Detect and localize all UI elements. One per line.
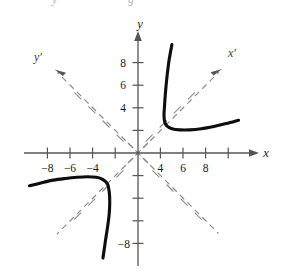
x-axis-label: x [262,146,269,160]
y-tick-label-8: 8 [120,57,126,69]
y-axis-label: y [135,17,143,31]
y-tick-label-4: 4 [120,102,126,114]
y-prime-axis-label: y′ [33,50,42,64]
y-axis: 8 6 4 −8 y [118,17,144,266]
graph-figure: y g y′ [0,0,283,272]
y-prime-axis-line [58,73,149,164]
x-prime-arrowhead [211,69,223,76]
x-prime-ticks [146,92,195,141]
y-tick-label-6: 6 [120,79,126,91]
y-prime-axis: y′ [33,50,219,234]
x-axis-arrowhead [249,149,259,157]
x-tick-label-6: 6 [180,162,186,174]
hyperbola-curves [30,45,239,259]
x-tick-label--4: −4 [86,162,98,174]
curve-branch-lower-left [30,177,110,258]
x-tick-label-4: 4 [158,162,164,174]
y-prime-negative-ticks [152,170,201,219]
y-prime-ticks [74,92,123,141]
y-prime-arrowhead [55,70,67,77]
y-tick-label--8: −8 [118,238,130,250]
x-prime-axis-label: x′ [227,46,236,60]
coordinate-plane: y′ x′ [0,0,283,272]
x-tick-label--6: −6 [64,162,76,174]
y-prime-axis-negative-line [128,143,219,234]
y-axis-arrowhead [134,31,142,41]
x-prime-axis: x′ [57,46,236,234]
x-axis: −8 −6 −4 4 6 8 x [24,146,269,174]
x-tick-label--8: −8 [41,162,53,174]
x-tick-label-8: 8 [203,162,209,174]
